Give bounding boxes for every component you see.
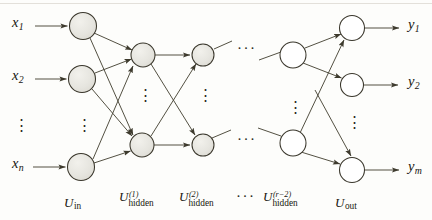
layer-gap-ellipsis-labels: ··· xyxy=(236,189,256,204)
node-output-1 xyxy=(340,16,365,41)
input-label-x2: x2 xyxy=(12,68,24,85)
node-ellipsis-hidden2-layer: ⋮ xyxy=(198,88,213,103)
edge-hr2b-outa xyxy=(300,40,344,133)
edge-gap-hr2a xyxy=(259,52,281,60)
input-labels-ellipsis: ⋮ xyxy=(14,118,29,133)
node-ellipsis-hidden1-layer: ⋮ xyxy=(138,88,153,103)
node-input-1 xyxy=(70,13,97,40)
node-hiddenR2-top xyxy=(280,42,306,68)
layer-gap-ellipsis-top: ··· xyxy=(237,41,257,56)
node-ellipsis-hiddenR2-layer: ⋮ xyxy=(288,100,303,115)
node-hidden1-bottom xyxy=(130,133,154,157)
edge-hr2a-outb xyxy=(303,63,342,78)
edge-inn-h1b xyxy=(94,151,131,163)
node-hidden1-top xyxy=(131,43,155,67)
output-label-y2: y2 xyxy=(408,74,420,91)
edge-in1-h1a xyxy=(94,33,132,50)
output-label-y1: y1 xyxy=(408,17,420,34)
node-ellipsis-input-layer: ⋮ xyxy=(77,118,92,133)
figure-canvas: x1 x2 xn y1 y2 ym ⋮ ⋮ ⋮ ⋮ ⋮ ⋮ ··· ··· ··… xyxy=(0,0,432,220)
edge-hr2a-outa xyxy=(305,34,341,48)
edge-group-hidden1-to-hidden2 xyxy=(151,55,196,145)
output-label-ym: ym xyxy=(408,159,422,176)
edge-inn-h1a xyxy=(93,66,133,159)
layer-label-u-hidden-2: U(2)hidden xyxy=(179,190,214,207)
node-output-2 xyxy=(341,74,364,97)
layer-gap-ellipsis-bottom: ··· xyxy=(237,132,257,147)
edge-group-output-stubs xyxy=(364,28,399,170)
node-input-2 xyxy=(69,66,96,93)
layer-label-u-hidden-r-2: U(r−2)hidden xyxy=(263,190,298,207)
edge-prev-outm xyxy=(315,90,351,156)
edge-h1a-h2b xyxy=(151,64,195,135)
input-label-xn: xn xyxy=(12,156,24,173)
edge-in1-h1b xyxy=(90,38,133,135)
node-hidden2-top xyxy=(192,44,214,66)
node-ellipsis-output-layer: ⋮ xyxy=(347,115,362,130)
node-input-n xyxy=(68,154,95,181)
node-output-m xyxy=(340,158,365,183)
node-hiddenR2-bottom xyxy=(280,130,306,156)
node-group-input-layer xyxy=(68,13,97,181)
edge-in2-h1b xyxy=(92,89,132,136)
layer-label-u-out: Uout xyxy=(335,196,357,212)
layer-label-u-in: Uin xyxy=(64,196,81,212)
layer-label-u-hidden-1: U(1)hidden xyxy=(119,190,154,207)
input-label-x1: x1 xyxy=(12,15,24,32)
edge-h2a-gap xyxy=(214,41,232,49)
edge-group-input-to-hidden1 xyxy=(90,33,133,163)
edge-gap-hr2b xyxy=(258,128,281,136)
node-hidden2-bottom xyxy=(192,134,214,156)
edge-hr2b-outm xyxy=(301,152,340,164)
edge-group-hiddenR2-to-output xyxy=(300,34,351,164)
network-diagram-svg xyxy=(0,0,432,220)
edge-h2b-gap xyxy=(212,130,231,138)
edge-group-input-stubs xyxy=(33,26,68,167)
